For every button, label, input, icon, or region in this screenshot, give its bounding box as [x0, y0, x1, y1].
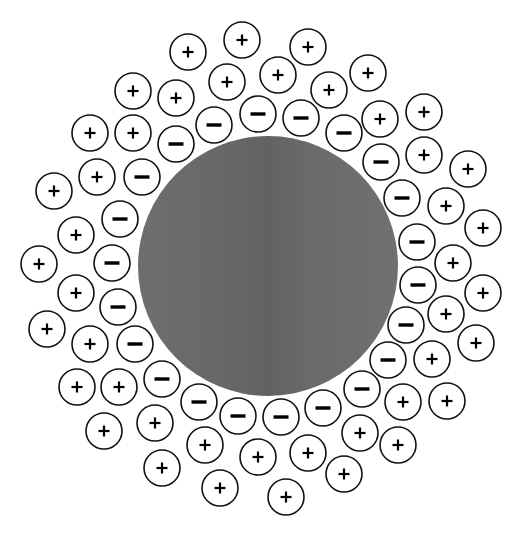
minus-sign-icon: [381, 358, 396, 361]
minus-sign-icon: [231, 414, 246, 417]
diagram-canvas: [0, 0, 524, 534]
positive-ion: [224, 22, 260, 58]
negative-ion: [196, 107, 232, 143]
minus-sign-icon: [192, 400, 207, 403]
minus-sign-icon: [169, 142, 184, 145]
negative-ion: [102, 201, 138, 237]
positive-ion: [59, 369, 95, 405]
minus-sign-icon: [207, 123, 222, 126]
positive-ion: [72, 326, 108, 362]
negative-ion: [388, 307, 424, 343]
positive-ion: [58, 217, 94, 253]
positive-ion: [86, 413, 122, 449]
positive-ion: [187, 427, 223, 463]
positive-ion: [326, 456, 362, 492]
positive-ion: [465, 210, 501, 246]
positive-ion: [406, 94, 442, 130]
positive-ion: [36, 173, 72, 209]
positive-ion: [406, 137, 442, 173]
positive-ion: [428, 188, 464, 224]
positive-ion: [342, 415, 378, 451]
minus-sign-icon: [411, 283, 426, 286]
negative-ion: [124, 159, 160, 195]
positive-ion: [428, 296, 464, 332]
negative-ion: [283, 100, 319, 136]
positive-ion: [429, 383, 465, 419]
minus-sign-icon: [113, 217, 128, 220]
positive-ion: [79, 159, 115, 195]
positive-ion: [385, 384, 421, 420]
positive-ion: [101, 369, 137, 405]
negative-ion: [384, 180, 420, 216]
positive-ion: [29, 311, 65, 347]
positive-ion: [268, 479, 304, 515]
positive-ion: [362, 101, 398, 137]
positive-ion: [450, 151, 486, 187]
minus-sign-icon: [274, 415, 289, 418]
minus-sign-icon: [355, 387, 370, 390]
positive-ion: [209, 64, 245, 100]
negative-ion: [263, 399, 299, 435]
positive-ion: [414, 341, 450, 377]
negative-ion: [144, 361, 180, 397]
negative-ion: [370, 342, 406, 378]
positive-ion: [202, 470, 238, 506]
negative-ion: [94, 245, 130, 281]
negative-ion: [399, 224, 435, 260]
positive-ion: [260, 57, 296, 93]
positive-ion: [435, 245, 471, 281]
minus-sign-icon: [337, 131, 352, 134]
positive-ion: [311, 72, 347, 108]
negative-ion: [305, 390, 341, 426]
minus-sign-icon: [410, 240, 425, 243]
minus-sign-icon: [155, 377, 170, 380]
negative-ion: [326, 115, 362, 151]
minus-sign-icon: [105, 261, 120, 264]
positive-ion: [115, 115, 151, 151]
positive-ion: [350, 55, 386, 91]
negative-ion: [400, 267, 436, 303]
positive-ion: [380, 427, 416, 463]
positive-ion: [144, 450, 180, 486]
positive-ion: [240, 439, 276, 475]
minus-sign-icon: [294, 116, 309, 119]
positive-ion: [115, 73, 151, 109]
charged-sphere: [138, 136, 398, 396]
minus-sign-icon: [374, 160, 389, 163]
positive-ion: [290, 435, 326, 471]
positive-ion: [58, 275, 94, 311]
negative-ion: [363, 144, 399, 180]
minus-sign-icon: [395, 196, 410, 199]
positive-ion: [290, 29, 326, 65]
negative-ion: [344, 371, 380, 407]
positive-ion: [137, 405, 173, 441]
minus-sign-icon: [316, 406, 331, 409]
negative-ion: [220, 398, 256, 434]
negative-ion: [117, 326, 153, 362]
negative-ion: [181, 384, 217, 420]
minus-sign-icon: [128, 342, 143, 345]
ion-cloud-diagram: [0, 0, 524, 534]
negative-ion: [100, 289, 136, 325]
positive-ion: [458, 325, 494, 361]
minus-sign-icon: [399, 323, 414, 326]
positive-ion: [72, 115, 108, 151]
minus-sign-icon: [111, 305, 126, 308]
positive-ion: [465, 275, 501, 311]
negative-ion: [158, 126, 194, 162]
positive-ion: [170, 34, 206, 70]
minus-sign-icon: [251, 112, 266, 115]
positive-ion: [21, 246, 57, 282]
negative-ion: [240, 96, 276, 132]
minus-sign-icon: [135, 175, 150, 178]
positive-ion: [158, 80, 194, 116]
